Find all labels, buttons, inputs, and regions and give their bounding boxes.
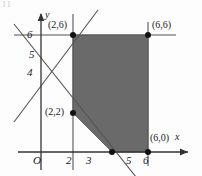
y-tick-5: 5	[29, 49, 35, 60]
x-axis-label: x	[175, 132, 179, 142]
y-axis-arrow-icon	[38, 13, 45, 21]
x-tick-2: 2	[66, 155, 72, 166]
coordinate-plot	[0, 0, 202, 176]
point-2-6	[70, 32, 76, 38]
point-label-2-2: (2,2)	[45, 107, 64, 117]
point-4-0	[109, 149, 115, 155]
x-axis-arrow-icon	[180, 149, 188, 156]
origin-label: O	[33, 155, 41, 166]
point-2-2	[70, 110, 76, 116]
point-label-2-6: (2,6)	[48, 20, 67, 30]
shaded-feasible-region	[73, 35, 148, 152]
y-tick-4: 4	[27, 67, 33, 78]
y-tick-6: 6	[27, 29, 33, 40]
point-label-6-0: (6,0)	[150, 133, 169, 143]
x-tick-3: 3	[86, 155, 92, 166]
x-tick-6: 6	[143, 155, 149, 166]
x-tick-5: 5	[126, 155, 132, 166]
point-label-6-6: (6,6)	[152, 20, 171, 30]
point-6-6	[145, 32, 151, 38]
figure-canvas: 11 y x O 6 5 4 2 3 5 6	[0, 0, 202, 176]
